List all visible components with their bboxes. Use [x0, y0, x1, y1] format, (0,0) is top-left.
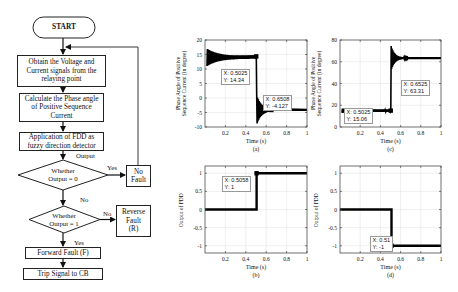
chart-caption: (d) — [340, 272, 441, 278]
y-axis-label: Output of FDD — [313, 160, 319, 260]
y-axis-label-line: Output of FDD — [313, 160, 319, 260]
datatip: X: 0.51Y: -1 — [370, 236, 393, 252]
datatip-x: X: 0.51 — [373, 237, 391, 244]
y-tick-label: 0.5 — [322, 188, 337, 194]
y-tick-label: -0.5 — [322, 225, 337, 231]
x-tick-label: 0.6 — [393, 256, 409, 262]
datatip-y: Y: -1 — [373, 244, 391, 251]
x-tick-label: 0.4 — [372, 256, 388, 262]
x-tick-label: 0.2 — [352, 256, 368, 262]
y-tick-label: -1 — [322, 243, 337, 249]
y-tick-label: 1 — [322, 170, 337, 176]
x-tick-label: 1 — [433, 256, 449, 262]
x-tick-label: 0.8 — [413, 256, 429, 262]
x-axis-label: Time (s) — [340, 264, 441, 270]
y-tick-label: 0 — [322, 207, 337, 213]
